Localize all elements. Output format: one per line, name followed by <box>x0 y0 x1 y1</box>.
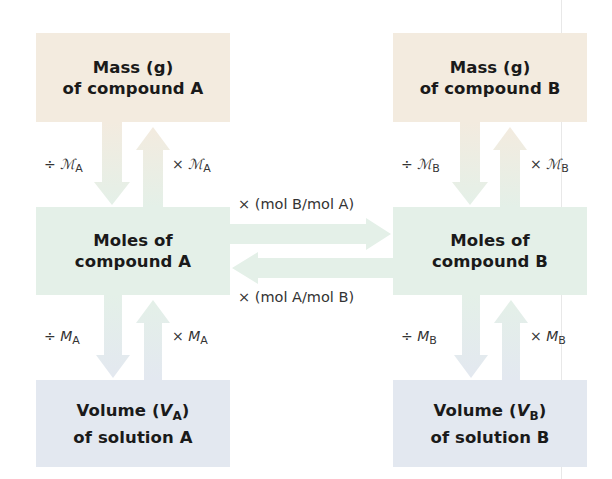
op: ÷ <box>44 328 56 344</box>
volume-b-prefix: Volume ( <box>434 401 517 420</box>
label-divide-molarity-b: ÷ MB <box>401 328 437 347</box>
label-divide-molarity-a: ÷ MA <box>44 328 80 347</box>
volume-a-line1: Volume (VA) <box>77 400 190 427</box>
arrow-left-b-to-a <box>232 252 393 284</box>
moles-a-line1: Moles of <box>93 230 172 251</box>
moles-b-line1: Moles of <box>450 230 529 251</box>
op: × <box>172 328 184 344</box>
subscript: B <box>429 334 437 347</box>
volume-a-line2: of solution A <box>73 427 192 448</box>
arrow-up-volume-to-moles-a <box>136 300 170 380</box>
mass-compound-a-box: Mass (g) of compound A <box>36 33 230 122</box>
volume-a-suffix: ) <box>182 401 190 420</box>
op: ÷ <box>44 156 56 172</box>
symbol: M <box>417 328 429 344</box>
symbol: M <box>188 328 200 344</box>
moles-b-line2: compound B <box>432 251 548 272</box>
arrow-down-mass-to-moles-b <box>452 122 488 205</box>
mass-b-line2: of compound B <box>420 78 561 99</box>
arrow-up-moles-to-mass-a <box>136 127 170 207</box>
subscript: A <box>75 162 83 175</box>
subscript: A <box>203 162 211 175</box>
op: × <box>172 156 184 172</box>
symbol: ℳ <box>60 156 75 172</box>
label-divide-molar-mass-a: ÷ ℳA <box>44 156 83 175</box>
label-multiply-molar-mass-b: × ℳB <box>530 156 569 175</box>
subscript: B <box>558 334 566 347</box>
label-mole-ratio-b-to-a: × (mol A/mol B) <box>238 289 354 305</box>
subscript: A <box>200 334 208 347</box>
mass-b-line1: Mass (g) <box>450 57 531 78</box>
symbol: ℳ <box>417 156 432 172</box>
volume-b-line1: Volume (VB) <box>434 400 547 427</box>
symbol: ℳ <box>546 156 561 172</box>
volume-b-suffix: ) <box>539 401 547 420</box>
label-multiply-molarity-b: × MB <box>530 328 566 347</box>
label-divide-molar-mass-b: ÷ ℳB <box>401 156 440 175</box>
mass-a-line1: Mass (g) <box>93 57 174 78</box>
symbol: ℳ <box>188 156 203 172</box>
volume-a-var: V <box>160 401 173 420</box>
label-multiply-molar-mass-a: × ℳA <box>172 156 211 175</box>
moles-compound-a-box: Moles of compound A <box>36 207 230 295</box>
op: × <box>530 156 542 172</box>
subscript: B <box>432 162 440 175</box>
subscript: A <box>72 334 80 347</box>
arrow-up-moles-to-mass-b <box>493 127 527 207</box>
volume-b-line2: of solution B <box>430 427 549 448</box>
volume-a-prefix: Volume ( <box>77 401 160 420</box>
label-multiply-molarity-a: × MA <box>172 328 208 347</box>
volume-solution-a-box: Volume (VA) of solution A <box>36 380 230 467</box>
symbol: M <box>60 328 72 344</box>
arrow-right-a-to-b <box>230 218 391 250</box>
arrow-down-moles-to-volume-a <box>96 295 130 378</box>
arrow-down-mass-to-moles-a <box>94 122 130 205</box>
op: × <box>530 328 542 344</box>
arrow-up-volume-to-moles-b <box>494 300 528 380</box>
label-mole-ratio-a-to-b: × (mol B/mol A) <box>238 196 354 212</box>
moles-a-line2: compound A <box>75 251 191 272</box>
volume-b-var: V <box>517 401 530 420</box>
mass-compound-b-box: Mass (g) of compound B <box>393 33 587 122</box>
volume-b-sub: B <box>530 409 539 423</box>
arrow-down-moles-to-volume-b <box>454 295 488 378</box>
op: ÷ <box>401 156 413 172</box>
op: ÷ <box>401 328 413 344</box>
moles-compound-b-box: Moles of compound B <box>393 207 587 295</box>
volume-solution-b-box: Volume (VB) of solution B <box>393 380 587 467</box>
symbol: M <box>546 328 558 344</box>
mass-a-line2: of compound A <box>63 78 204 99</box>
subscript: B <box>561 162 569 175</box>
volume-a-sub: A <box>172 409 181 423</box>
